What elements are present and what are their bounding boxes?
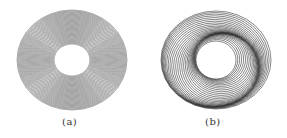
ring xyxy=(52,42,92,77)
ring xyxy=(39,30,105,90)
ring xyxy=(42,33,103,88)
ring xyxy=(193,34,247,84)
ring xyxy=(35,27,109,94)
ring xyxy=(32,24,112,96)
ring xyxy=(51,41,93,78)
ring xyxy=(23,15,122,105)
ring xyxy=(53,43,91,77)
ring xyxy=(50,41,94,80)
ring xyxy=(49,40,94,81)
ring xyxy=(20,13,124,108)
twisted-rings-figure-b xyxy=(161,11,271,109)
ring xyxy=(48,39,95,81)
ring xyxy=(194,37,241,81)
ring xyxy=(29,21,114,98)
ring xyxy=(196,41,236,79)
concentric-rings-figure-a xyxy=(17,10,127,110)
ring xyxy=(47,38,96,82)
ring xyxy=(45,35,100,84)
ring xyxy=(54,44,90,76)
caption-b: (b) xyxy=(205,116,221,127)
diagram-canvas xyxy=(0,0,287,138)
caption-a: (a) xyxy=(62,116,77,127)
ring xyxy=(195,38,240,80)
ring xyxy=(26,18,119,102)
ring xyxy=(195,40,237,80)
